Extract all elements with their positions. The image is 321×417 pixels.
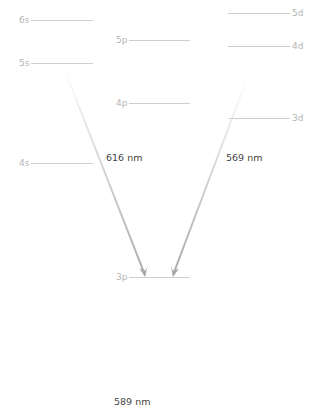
level-line-5d xyxy=(228,13,290,14)
level-line-3d xyxy=(228,118,290,119)
level-label-3p: 3p xyxy=(116,272,127,282)
wavelength-label-589: 589 nm xyxy=(114,396,150,407)
level-line-6s xyxy=(31,20,93,21)
arrow-616nm xyxy=(63,66,148,277)
level-label-5d: 5d xyxy=(292,8,303,18)
level-line-3p xyxy=(129,277,190,278)
level-label-5p: 5p xyxy=(116,35,127,45)
level-line-5p xyxy=(129,40,190,41)
level-label-6s: 6s xyxy=(19,15,29,25)
wavelength-label-569: 569 nm xyxy=(226,152,262,163)
wavelength-label-616: 616 nm xyxy=(106,152,142,163)
level-label-5s: 5s xyxy=(19,58,29,68)
level-line-5s xyxy=(31,63,93,64)
level-line-4p xyxy=(129,103,190,104)
level-label-4d: 4d xyxy=(292,41,303,51)
arrow-569nm xyxy=(171,76,249,277)
level-label-4s: 4s xyxy=(19,158,29,168)
level-line-4d xyxy=(228,46,290,47)
level-label-3d: 3d xyxy=(292,113,303,123)
level-label-4p: 4p xyxy=(116,98,127,108)
level-line-4s xyxy=(31,163,93,164)
